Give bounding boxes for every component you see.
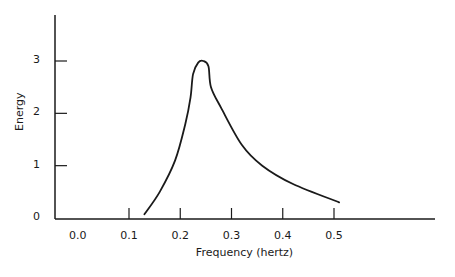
y-tick-label: 3 — [20, 54, 40, 66]
x-tick-label: 0.2 — [165, 230, 195, 242]
x-tick-label: 0.0 — [63, 230, 93, 242]
y-tick-label: 0 — [20, 211, 40, 223]
x-tick-marks — [129, 208, 334, 219]
x-axis-label: Frequency (hertz) — [182, 247, 307, 259]
energy-curve — [144, 61, 339, 215]
x-tick-label: 0.4 — [268, 230, 298, 242]
x-tick-label: 0.3 — [217, 230, 247, 242]
y-axis-label: Energy — [14, 92, 26, 131]
y-tick-label: 1 — [20, 159, 40, 171]
x-tick-label: 0.5 — [319, 230, 349, 242]
x-tick-label: 0.1 — [114, 230, 144, 242]
y-tick-marks — [55, 61, 67, 166]
